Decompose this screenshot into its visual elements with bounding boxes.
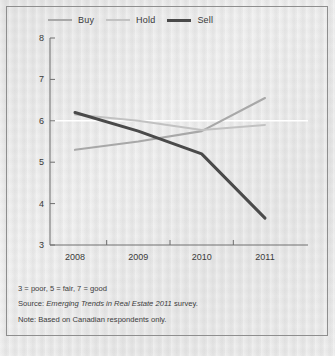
footnote-source-suffix: survey.: [172, 299, 198, 308]
y-tick-label-5: 5: [28, 157, 44, 167]
chart-legend: Buy Hold Sell: [48, 13, 213, 27]
y-tick-label-6: 6: [28, 116, 44, 126]
x-tick-label-2011: 2011: [242, 252, 288, 262]
footnote-source: Source: Emerging Trends in Real Estate 2…: [18, 296, 318, 311]
y-tick-label-3: 3: [28, 240, 44, 250]
legend-swatch-buy: [48, 19, 72, 21]
legend-label-sell: Sell: [197, 15, 213, 25]
y-tick-label-4: 4: [28, 199, 44, 209]
y-tick-label-7: 7: [28, 74, 44, 84]
footnotes: 3 = poor, 5 = fair, 7 = good Source: Eme…: [18, 281, 318, 327]
footnote-scale: 3 = poor, 5 = fair, 7 = good: [18, 281, 318, 296]
x-tick-label-2008: 2008: [52, 252, 98, 262]
footnote-source-title: Emerging Trends in Real Estate 2011: [46, 299, 172, 308]
footnote-note: Note: Based on Canadian respondents only…: [18, 312, 318, 327]
legend-item-hold[interactable]: Hold: [106, 15, 155, 25]
footnote-source-prefix: Source:: [18, 299, 46, 308]
legend-item-sell[interactable]: Sell: [167, 15, 213, 25]
y-tick-label-8: 8: [28, 33, 44, 43]
x-tick-label-2009: 2009: [115, 252, 161, 262]
legend-swatch-hold: [106, 19, 130, 21]
legend-swatch-sell: [167, 19, 191, 22]
legend-item-buy[interactable]: Buy: [48, 15, 94, 25]
legend-label-hold: Hold: [136, 15, 155, 25]
figure-canvas: Buy Hold Sell 876543 2008200920102011 3 …: [0, 0, 335, 356]
legend-label-buy: Buy: [78, 15, 94, 25]
x-tick-label-2010: 2010: [179, 252, 225, 262]
